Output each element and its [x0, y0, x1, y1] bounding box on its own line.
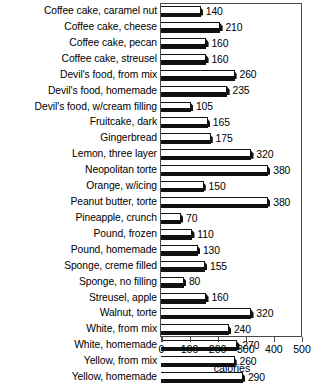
bar-value-label: 155 [210, 259, 227, 275]
bar-tip [234, 70, 237, 79]
bar-value-label: 105 [196, 99, 213, 115]
bar-tip [180, 213, 183, 222]
category-label: Sponge, creme filled [0, 258, 157, 274]
bar-value-label: 165 [213, 115, 230, 131]
category-label: Coffee cake, streusel [0, 51, 157, 67]
bar-value-label: 240 [234, 322, 251, 338]
bar-value-label: 80 [189, 274, 200, 290]
bar-body [161, 165, 268, 173]
bar-tip [267, 197, 270, 206]
bar-body [161, 6, 200, 14]
bar-value-label: 110 [197, 227, 213, 243]
bars-layer: 1402101601602602351051651753203801503807… [161, 4, 302, 336]
bar-body [161, 197, 268, 205]
bar [161, 197, 268, 208]
bar [161, 261, 205, 272]
bar-tip [205, 38, 208, 47]
bar-row: 160 [161, 52, 302, 68]
category-label: Pound, homemade [0, 242, 157, 258]
bar-body [161, 181, 203, 189]
bar [161, 308, 251, 319]
bar-value-label: 160 [211, 36, 228, 52]
bar-body [161, 86, 227, 94]
bar-row: 210 [161, 20, 302, 36]
bar-value-label: 320 [256, 306, 273, 322]
bar-tip [219, 22, 222, 31]
bar-tip [210, 134, 213, 143]
bar [161, 229, 192, 240]
bar-value-label: 160 [211, 52, 228, 68]
bar-row: 260 [161, 68, 302, 84]
bar-body [161, 149, 251, 157]
bar-tip [191, 229, 194, 238]
x-tick [161, 337, 162, 342]
category-label: Sponge, no filling [0, 274, 157, 290]
x-tick-label: 200 [209, 343, 227, 356]
bar-tip [250, 150, 253, 159]
bar-row: 175 [161, 132, 302, 148]
bar-value-label: 380 [273, 195, 290, 211]
bar-tip [204, 261, 207, 270]
bar-tip [183, 277, 186, 286]
category-label: Orange, w/icing [0, 178, 157, 194]
bar-body [161, 213, 181, 221]
bar [161, 102, 191, 113]
x-axis-title: calories [161, 362, 303, 375]
bar [161, 38, 206, 49]
bar-body [161, 133, 210, 141]
x-tick [246, 337, 247, 342]
category-label: White, from mix [0, 321, 157, 337]
bar-row: 380 [161, 164, 302, 180]
bar-row: 80 [161, 275, 302, 291]
x-tick-label: 0 [158, 343, 164, 356]
bar-value-label: 160 [211, 290, 228, 306]
bar-value-label: 175 [216, 131, 233, 147]
bar [161, 165, 268, 176]
x-tick [190, 337, 191, 342]
category-label: Coffee cake, pecan [0, 35, 157, 51]
x-tick [274, 337, 275, 342]
x-tick-label: 400 [265, 343, 283, 356]
bar [161, 149, 251, 160]
bar-value-label: 150 [209, 179, 226, 195]
bar-body [161, 38, 206, 46]
category-label: Walnut, torte [0, 305, 157, 321]
x-tick-label: 500 [293, 343, 311, 356]
category-label: Pineapple, crunch [0, 210, 157, 226]
category-label: Lemon, three layer [0, 146, 157, 162]
bar-tip [207, 118, 210, 127]
bar-row: 105 [161, 100, 302, 116]
bar-row: 155 [161, 259, 302, 275]
category-label: Gingerbread [0, 130, 157, 146]
bar [161, 133, 210, 144]
bar-value-label: 320 [256, 147, 273, 163]
category-label: Coffee cake, cheese [0, 19, 157, 35]
bar-tip [267, 166, 270, 175]
x-tick-label: 100 [181, 343, 199, 356]
category-label: Devil's food, homemade [0, 83, 157, 99]
category-label: Fruitcake, dark [0, 114, 157, 130]
bar-value-label: 235 [232, 83, 249, 99]
bar-value-label: 210 [225, 20, 242, 36]
bar-body [161, 293, 206, 301]
bar-row: 320 [161, 148, 302, 164]
category-label: Streusel, apple [0, 290, 157, 306]
category-label: Peanut butter, torte [0, 194, 157, 210]
bar [161, 22, 220, 33]
bar-tip [228, 325, 231, 334]
bar-tip [200, 6, 203, 15]
bar-body [161, 308, 251, 316]
bar-row: 165 [161, 116, 302, 132]
bar-body [161, 245, 198, 253]
bar-value-label: 70 [186, 211, 197, 227]
category-label: Neopolitan torte [0, 162, 157, 178]
bar-row: 150 [161, 180, 302, 196]
bar [161, 117, 207, 128]
bar [161, 277, 183, 288]
bar-tip [197, 245, 200, 254]
bar [161, 86, 227, 97]
bar-row: 380 [161, 195, 302, 211]
bar-row: 320 [161, 307, 302, 323]
category-label: Devil's food, w/cream filling [0, 99, 157, 115]
bar-body [161, 70, 234, 78]
